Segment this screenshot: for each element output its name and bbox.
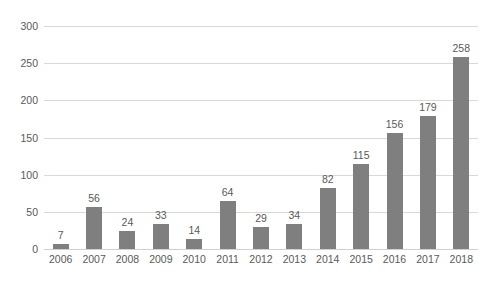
y-axis-tick-label: 150 bbox=[4, 133, 38, 143]
bar-slot: 258 bbox=[445, 26, 478, 249]
bar-value-label: 64 bbox=[222, 187, 234, 198]
bar-chart: 300250200150100500 756243314642934821151… bbox=[0, 0, 493, 281]
bar-slot: 156 bbox=[378, 26, 411, 249]
x-axis-tick-label: 2009 bbox=[144, 252, 177, 266]
bar-slot: 34 bbox=[278, 26, 311, 249]
bar[interactable] bbox=[86, 207, 102, 249]
y-axis-tick-label: 300 bbox=[4, 21, 38, 31]
bar[interactable] bbox=[153, 224, 169, 249]
bar[interactable] bbox=[186, 239, 202, 249]
bar-value-label: 82 bbox=[322, 174, 334, 185]
bar-value-label: 34 bbox=[289, 210, 301, 221]
x-axis-tick-label: 2013 bbox=[278, 252, 311, 266]
bar[interactable] bbox=[353, 164, 369, 249]
bar-slot: 7 bbox=[44, 26, 77, 249]
bar[interactable] bbox=[119, 231, 135, 249]
bar-value-label: 24 bbox=[122, 217, 134, 228]
bar[interactable] bbox=[320, 188, 336, 249]
bar-value-label: 29 bbox=[255, 213, 267, 224]
bar-value-label: 33 bbox=[155, 210, 167, 221]
y-axis-tick-label: 100 bbox=[4, 170, 38, 180]
x-axis-tick-label: 2008 bbox=[111, 252, 144, 266]
bar-slot: 14 bbox=[178, 26, 211, 249]
bar-value-label: 115 bbox=[353, 150, 370, 161]
bar[interactable] bbox=[420, 116, 436, 249]
x-axis-tick-label: 2010 bbox=[178, 252, 211, 266]
bar-slot: 29 bbox=[244, 26, 277, 249]
gridline bbox=[44, 249, 478, 250]
bar[interactable] bbox=[253, 227, 269, 249]
x-axis-tick-label: 2012 bbox=[244, 252, 277, 266]
x-axis-tick-label: 2007 bbox=[77, 252, 110, 266]
bar-slot: 24 bbox=[111, 26, 144, 249]
bar-slot: 179 bbox=[411, 26, 444, 249]
bar-value-label: 156 bbox=[386, 119, 404, 130]
x-axis-tick-label: 2018 bbox=[445, 252, 478, 266]
bar[interactable] bbox=[53, 244, 69, 249]
bar[interactable] bbox=[387, 133, 403, 249]
bar[interactable] bbox=[453, 57, 469, 249]
bar-slot: 64 bbox=[211, 26, 244, 249]
x-axis-tick-label: 2006 bbox=[44, 252, 77, 266]
bar-value-label: 14 bbox=[188, 225, 200, 236]
y-axis-tick-label: 250 bbox=[4, 58, 38, 68]
x-axis-tick-label: 2017 bbox=[411, 252, 444, 266]
bar-slot: 56 bbox=[77, 26, 110, 249]
bar-slot: 33 bbox=[144, 26, 177, 249]
y-axis-tick-label: 200 bbox=[4, 95, 38, 105]
bar-slot: 82 bbox=[311, 26, 344, 249]
y-axis-tick-label: 50 bbox=[4, 207, 38, 217]
x-axis-tick-label: 2014 bbox=[311, 252, 344, 266]
bar-slot: 115 bbox=[344, 26, 377, 249]
plot-area: 75624331464293482115156179258 bbox=[44, 26, 478, 249]
bar-value-label: 179 bbox=[419, 102, 437, 113]
x-axis: 2006200720082009201020112012201320142015… bbox=[44, 252, 478, 272]
y-axis-tick-label: 0 bbox=[4, 244, 38, 254]
x-axis-tick-label: 2011 bbox=[211, 252, 244, 266]
y-axis: 300250200150100500 bbox=[0, 26, 38, 249]
x-axis-tick-label: 2015 bbox=[344, 252, 377, 266]
bar-value-label: 7 bbox=[58, 230, 64, 241]
bar[interactable] bbox=[286, 224, 302, 249]
x-axis-tick-label: 2016 bbox=[378, 252, 411, 266]
bar[interactable] bbox=[220, 201, 236, 249]
bar-value-label: 258 bbox=[453, 43, 471, 54]
bar-value-label: 56 bbox=[88, 193, 100, 204]
